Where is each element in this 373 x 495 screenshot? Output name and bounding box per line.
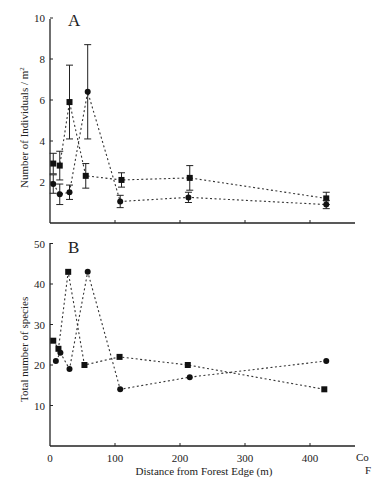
square-marker — [50, 338, 56, 344]
panel-b-label: B — [68, 238, 79, 257]
y-tick-label: 6 — [40, 94, 46, 106]
panel-b: 10203040500100200300400 — [34, 238, 355, 465]
square-marker — [187, 175, 193, 181]
square-marker — [67, 99, 73, 105]
square-marker — [185, 362, 191, 368]
panel-a-y-axis-title: Number of Individuals / m2 — [18, 67, 30, 188]
square-marker — [65, 269, 71, 275]
square-marker — [83, 173, 89, 179]
figure: 246810 10203040500100200300400 A B Numbe… — [0, 0, 373, 495]
circle-marker — [67, 366, 73, 372]
series-line-circles — [56, 272, 326, 389]
square-marker — [119, 177, 125, 183]
series-line-squares — [53, 272, 324, 389]
square-marker — [57, 163, 63, 169]
circle-marker — [57, 191, 63, 197]
circle-marker — [85, 269, 91, 275]
x-tick-label: 100 — [107, 452, 124, 464]
circle-marker — [50, 181, 56, 187]
x-axis-title: Distance from Forest Edge (m) — [136, 465, 273, 478]
square-marker — [321, 386, 327, 392]
circle-marker — [57, 350, 63, 356]
circle-marker — [67, 189, 73, 195]
square-marker — [81, 362, 87, 368]
x-tick-label: 0 — [47, 452, 53, 464]
y-tick-label: 30 — [34, 319, 46, 331]
circle-marker — [187, 374, 193, 380]
y-tick-label: 10 — [34, 400, 46, 412]
x-tick-label: 200 — [172, 452, 189, 464]
x-tick-label: 300 — [237, 452, 254, 464]
circle-marker — [323, 202, 329, 208]
y-tick-label: 40 — [34, 278, 46, 290]
cut-off-label-f: F — [365, 464, 371, 476]
square-marker — [50, 161, 56, 167]
y-tick-label: 4 — [40, 135, 46, 147]
cut-off-label-co: Co — [356, 451, 369, 463]
panel-b-y-axis-title: Total number of species — [18, 297, 30, 402]
panel-a-label: A — [68, 11, 81, 30]
circle-marker — [323, 358, 329, 364]
y-tick-label: 20 — [34, 359, 46, 371]
circle-marker — [117, 386, 123, 392]
circle-marker — [185, 194, 191, 200]
y-tick-label: 10 — [34, 12, 46, 24]
circle-marker — [53, 358, 59, 364]
y-tick-label: 50 — [34, 238, 46, 250]
y-tick-label: 8 — [40, 53, 46, 65]
y-tick-label: 2 — [40, 176, 46, 188]
panel-a: 246810 — [34, 12, 355, 223]
square-marker — [117, 354, 123, 360]
x-tick-label: 400 — [302, 452, 319, 464]
circle-marker — [117, 198, 123, 204]
circle-marker — [85, 89, 91, 95]
